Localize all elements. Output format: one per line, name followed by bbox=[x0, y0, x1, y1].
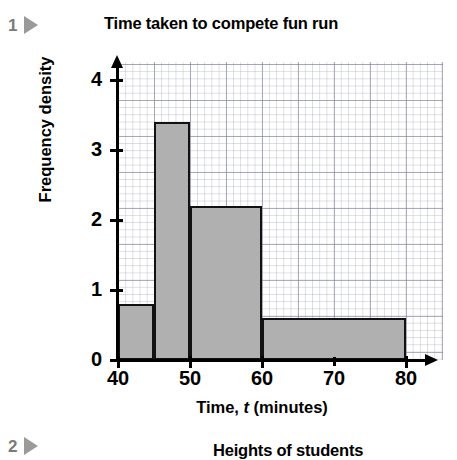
y-tick-3 bbox=[110, 149, 123, 152]
x-tick-label: 70 bbox=[311, 368, 357, 388]
y-axis-arrow-icon bbox=[111, 55, 123, 68]
question-marker-2: 2 bbox=[8, 437, 38, 455]
play-triangle-icon bbox=[24, 437, 38, 455]
histogram-bar bbox=[154, 122, 190, 360]
histogram-figure: Time taken to compete fun run 0 1 2 3 4 … bbox=[0, 0, 457, 425]
y-tick-label: 1 bbox=[72, 279, 102, 299]
x-tick-label: 80 bbox=[383, 368, 429, 388]
y-tick-label: 4 bbox=[72, 69, 102, 89]
x-axis-title-pre: Time, bbox=[196, 398, 243, 416]
y-tick-4 bbox=[110, 79, 123, 82]
y-tick-labels: 0 1 2 3 4 bbox=[72, 0, 102, 425]
x-tick-label: 40 bbox=[95, 368, 141, 388]
question-number: 2 bbox=[8, 438, 17, 455]
y-axis-title: Frequency density bbox=[36, 40, 55, 220]
plot-area bbox=[118, 80, 406, 360]
x-tick-label: 60 bbox=[239, 368, 285, 388]
x-axis-arrow-icon bbox=[425, 354, 438, 366]
y-tick-1 bbox=[110, 289, 123, 292]
y-tick-label: 2 bbox=[72, 209, 102, 229]
x-axis-line bbox=[116, 359, 428, 362]
x-tick-label: 50 bbox=[167, 368, 213, 388]
chart-title: Time taken to compete fun run bbox=[104, 14, 338, 33]
chart-title-2: Heights of students bbox=[213, 441, 363, 460]
y-axis-line bbox=[116, 66, 119, 362]
x-tick-70 bbox=[333, 357, 336, 366]
y-tick-2 bbox=[110, 219, 123, 222]
histogram-bar bbox=[190, 206, 262, 360]
y-tick-label: 0 bbox=[72, 349, 102, 369]
histogram-bar bbox=[118, 304, 154, 360]
histogram-bar bbox=[262, 318, 406, 360]
x-axis-title-post: (minutes) bbox=[249, 398, 328, 416]
x-axis-title: Time, t (minutes) bbox=[118, 398, 406, 417]
y-tick-label: 3 bbox=[72, 139, 102, 159]
